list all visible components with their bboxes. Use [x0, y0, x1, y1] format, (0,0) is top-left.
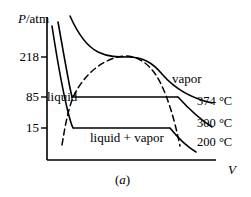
- y-axis-title: P/atm: [18, 12, 49, 25]
- region-label-liquid: liquid: [47, 90, 77, 103]
- y-axis-title-variable: P: [18, 11, 26, 26]
- y-tick-label-218: 218: [6, 50, 39, 63]
- y-tick-label-85: 85: [6, 90, 39, 103]
- isotherm-curve-200-vapor: [170, 128, 196, 152]
- isotherm-label-200: 200 °C: [197, 136, 232, 149]
- y-tick-label-15: 15: [6, 121, 39, 134]
- isotherm-curve-200-liquid: [52, 26, 73, 128]
- figure-caption: (a): [115, 173, 130, 186]
- figure-caption-letter: a: [119, 172, 126, 187]
- isotherm-curve-300-liquid: [58, 22, 72, 97]
- phase-diagram-figure: P/atm 218 85 15 V liquid vapor liquid + …: [0, 0, 251, 197]
- region-label-liquid-plus-vapor: liquid + vapor: [90, 131, 164, 144]
- x-axis-title: V: [228, 163, 236, 176]
- region-label-vapor: vapor: [172, 72, 202, 85]
- isotherm-label-374: 374 °C: [197, 95, 232, 108]
- y-axis-title-unit: /atm: [26, 11, 49, 26]
- isotherm-label-300: 300 °C: [197, 117, 232, 130]
- isotherm-curve-374: [70, 16, 212, 103]
